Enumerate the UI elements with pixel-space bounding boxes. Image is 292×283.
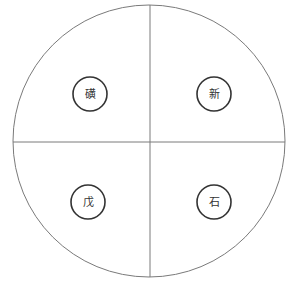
diagram-svg: 磺 新 戊 石 [0,0,292,283]
node-top-right: 新 [197,77,231,111]
node-label: 戊 [83,196,94,209]
node-bottom-right: 石 [197,185,231,219]
node-label: 新 [209,87,220,101]
outer-circle [13,5,285,277]
node-bottom-left: 戊 [71,185,105,219]
quadrant-diagram: 磺 新 戊 石 [0,0,292,283]
node-label: 磺 [85,87,96,101]
node-label: 石 [209,196,220,209]
node-top-left: 磺 [73,77,107,111]
